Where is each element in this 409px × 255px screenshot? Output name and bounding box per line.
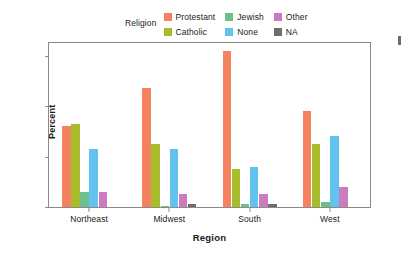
- legend-item-na[interactable]: NA: [274, 27, 308, 37]
- legend-item-jewish[interactable]: Jewish: [225, 12, 264, 22]
- legend-label-catholic: Catholic: [176, 27, 208, 37]
- bar-northeast-catholic: [71, 124, 80, 207]
- bar-west-other: [339, 187, 348, 207]
- x-tick-mark: [329, 207, 330, 212]
- bar-northeast-jewish: [80, 192, 89, 207]
- bar-midwest-none: [170, 149, 179, 207]
- bar-south-none: [250, 167, 259, 207]
- legend-label-protestant: Protestant: [176, 12, 216, 22]
- plot-frame: Percent 0204060NortheastMidwestSouthWest: [48, 42, 371, 208]
- legend-swatch-other: [274, 13, 282, 21]
- bar-midwest-protestant: [142, 88, 151, 207]
- x-axis-label: Region: [48, 232, 371, 243]
- legend-title: Religion: [125, 18, 157, 28]
- bar-northeast-none: [89, 149, 98, 207]
- bar-west-jewish: [321, 202, 330, 207]
- bar-midwest-jewish: [161, 206, 170, 207]
- y-tick-mark: [45, 106, 49, 107]
- bar-west-none: [330, 136, 339, 207]
- legend-item-catholic[interactable]: Catholic: [164, 27, 216, 37]
- legend-items: ProtestantJewishOtherCatholicNoneNA: [164, 9, 308, 39]
- legend-item-other[interactable]: Other: [274, 12, 308, 22]
- bar-south-other: [259, 194, 268, 207]
- legend-label-jewish: Jewish: [237, 12, 264, 22]
- bar-south-na: [268, 204, 277, 207]
- page-edge-artifact: [398, 36, 401, 45]
- bar-south-catholic: [232, 169, 241, 207]
- legend-label-other: Other: [286, 12, 308, 22]
- bar-midwest-other: [179, 194, 188, 207]
- bar-midwest-catholic: [151, 144, 160, 207]
- x-tick-label-midwest: Midwest: [153, 214, 185, 224]
- legend-swatch-jewish: [225, 13, 233, 21]
- chart-legend: Religion ProtestantJewishOtherCatholicNo…: [125, 9, 335, 39]
- y-tick-mark: [45, 207, 49, 208]
- legend-swatch-none: [225, 28, 233, 36]
- bar-northeast-other: [99, 192, 108, 207]
- bar-midwest-na: [188, 204, 197, 207]
- legend-swatch-na: [274, 28, 282, 36]
- bar-west-protestant: [303, 111, 312, 207]
- x-tick-mark: [169, 207, 170, 212]
- x-tick-label-northeast: Northeast: [70, 214, 108, 224]
- legend-label-na: NA: [286, 27, 298, 37]
- legend-item-protestant[interactable]: Protestant: [164, 12, 216, 22]
- x-tick-label-west: West: [320, 214, 340, 224]
- legend-swatch-catholic: [164, 28, 172, 36]
- legend-item-none[interactable]: None: [225, 27, 264, 37]
- bar-chart: Religion ProtestantJewishOtherCatholicNo…: [0, 0, 409, 255]
- bar-south-jewish: [241, 204, 250, 207]
- x-tick-label-south: South: [238, 214, 261, 224]
- x-tick-mark: [249, 207, 250, 212]
- legend-label-none: None: [237, 27, 258, 37]
- legend-swatch-protestant: [164, 13, 172, 21]
- bar-west-catholic: [312, 144, 321, 207]
- plot-area: [49, 43, 370, 207]
- bar-northeast-protestant: [62, 126, 71, 207]
- x-tick-mark: [89, 207, 90, 212]
- y-tick-mark: [45, 157, 49, 158]
- bar-south-protestant: [223, 51, 232, 207]
- y-tick-mark: [45, 56, 49, 57]
